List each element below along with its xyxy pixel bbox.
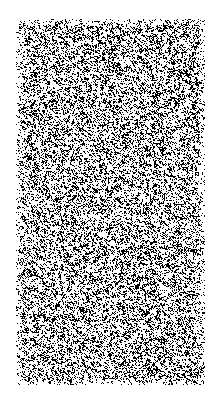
noise-image-stage: Random black and white one-bit noise fie… <box>0 0 214 393</box>
random-binary-noise-canvas <box>16 19 205 385</box>
